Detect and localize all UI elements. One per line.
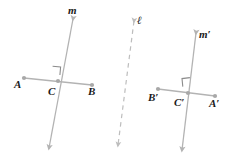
point-a-dot	[22, 76, 26, 80]
point-c-prime-label: C′	[174, 96, 184, 108]
right-angle-marker-c	[53, 66, 61, 75]
right-figure-group: B′ C′ A′ m′	[147, 28, 219, 150]
point-b-label: B	[87, 85, 95, 97]
right-angle-marker-c-prime	[182, 78, 190, 87]
line-m-label: m	[68, 4, 77, 16]
point-c-prime-dot	[186, 91, 190, 95]
geometry-diagram-svg: A C B m ℓ B′ C′ A′ m′	[0, 0, 238, 165]
line-l-label: ℓ	[137, 14, 142, 26]
line-m-prime-label: m′	[199, 28, 211, 40]
point-c-dot	[56, 79, 60, 83]
left-figure-group: A C B m	[13, 4, 95, 148]
point-a-prime-label: A′	[208, 97, 219, 109]
point-a-label: A	[13, 78, 21, 90]
line-l-dashed	[118, 21, 134, 145]
mirror-line-group: ℓ	[118, 14, 142, 145]
point-b-prime-label: B′	[147, 91, 158, 103]
geometry-figure-root: A C B m ℓ B′ C′ A′ m′	[0, 0, 238, 165]
point-c-label: C	[48, 85, 56, 97]
line-m	[49, 19, 73, 148]
